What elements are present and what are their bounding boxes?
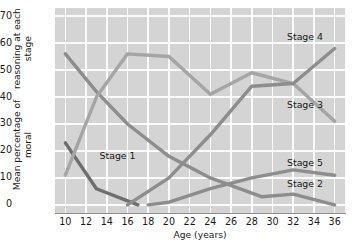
y-tick-label: 70 xyxy=(0,10,12,21)
y-tick-label: 0 xyxy=(0,198,12,209)
y-tick-label: 40 xyxy=(0,91,12,102)
x-axis-title: Age (years) xyxy=(55,229,345,240)
y-axis-title-line1: Mean percentage of moral xyxy=(11,96,33,194)
series-label-stage-1: Stage 1 xyxy=(100,150,136,161)
chart-figure: Mean percentage of moral reasoning at ea… xyxy=(0,0,361,248)
series-label-stage-2: Stage 2 xyxy=(287,178,323,189)
y-tick-label: 50 xyxy=(0,64,12,75)
y-axis-title-line2: reasoning at each stage xyxy=(11,4,33,93)
series-label-stage-4: Stage 4 xyxy=(287,31,323,42)
y-tick-label: 10 xyxy=(0,171,12,182)
x-axis-line xyxy=(55,213,346,214)
y-tick-label: 60 xyxy=(0,37,12,48)
y-tick-label: 20 xyxy=(0,144,12,155)
series-label-stage-5: Stage 5 xyxy=(287,157,323,168)
series-label-stage-3: Stage 3 xyxy=(287,99,323,110)
x-tick-label: 36 xyxy=(320,216,350,227)
y-tick-label: 30 xyxy=(0,117,12,128)
